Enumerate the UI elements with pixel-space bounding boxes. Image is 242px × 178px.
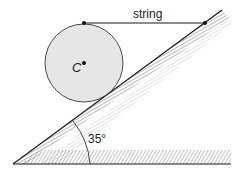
angle-label: 35° bbox=[88, 132, 106, 146]
string-label: string bbox=[133, 7, 162, 21]
incline-cylinder-diagram: C string 35° bbox=[0, 0, 242, 178]
center-point bbox=[82, 61, 86, 65]
center-label: C bbox=[72, 60, 82, 75]
incline-line bbox=[13, 10, 222, 164]
incline-hatching bbox=[13, 10, 229, 164]
string-anchor-point bbox=[203, 21, 207, 25]
string-top-point bbox=[82, 21, 86, 25]
